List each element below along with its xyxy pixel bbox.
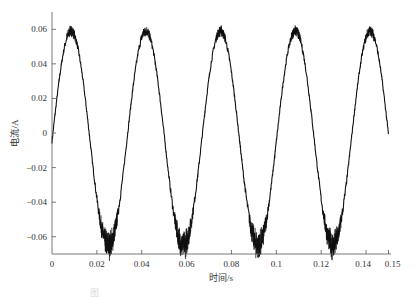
x-ticks: 00.020.040.060.080.10.120.140.15 — [50, 250, 401, 269]
x-tick-label: 0.04 — [134, 259, 150, 269]
y-tick-label: 0.04 — [31, 59, 47, 69]
x-tick-label: 0 — [50, 259, 55, 269]
y-tick-label: −0.02 — [26, 163, 47, 173]
x-tick-label: 0.02 — [89, 259, 105, 269]
x-tick-label: 0.12 — [313, 259, 329, 269]
current-ripple — [67, 25, 375, 261]
y-axis-title: 电流/A — [9, 119, 20, 147]
x-tick-label: 0.1 — [271, 259, 282, 269]
y-tick-label: −0.06 — [26, 232, 47, 242]
x-axis-title: 时间/s — [209, 272, 234, 283]
y-tick-label: 0 — [43, 128, 48, 138]
y-tick-label: 0.06 — [31, 24, 47, 34]
y-tick-label: −0.04 — [26, 197, 47, 207]
y-tick-label: 0.02 — [31, 93, 47, 103]
x-tick-label: 0.14 — [355, 259, 371, 269]
x-tick-label: 0.06 — [179, 259, 195, 269]
x-tick-label: 0.08 — [224, 259, 240, 269]
y-ticks: 0.060.040.020−0.02−0.04−0.06 — [26, 24, 56, 241]
x-tick-label: 0.15 — [385, 259, 401, 269]
current-time-chart: 00.020.040.060.080.10.120.140.15 0.060.0… — [0, 0, 415, 297]
figure-caption: 图 — [90, 286, 99, 297]
